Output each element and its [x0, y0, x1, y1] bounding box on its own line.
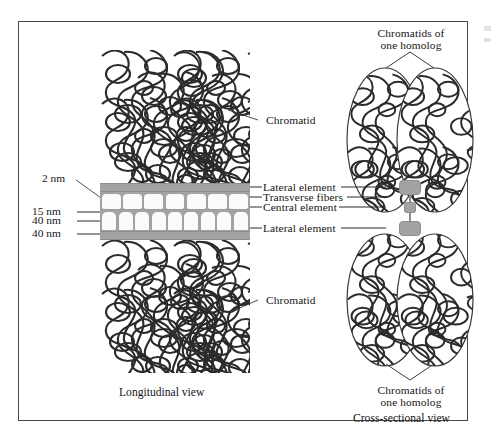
label-chromatids-homolog-bottom-line2: one homolog — [364, 396, 458, 409]
label-chromatids-homolog-top-line2: one homolog — [364, 39, 458, 52]
transverse-fiber-row-bottom — [100, 210, 250, 231]
transverse-fiber-gap — [102, 212, 116, 230]
synaptonemal-complex-longitudinal — [100, 183, 250, 240]
transverse-fiber-gap — [144, 194, 163, 209]
transverse-fiber-gap — [102, 194, 121, 209]
transverse-fiber-gap — [123, 194, 142, 209]
transverse-fiber-gap — [229, 194, 248, 209]
scale-label-2nm: 2 nm — [42, 172, 65, 184]
transverse-fiber-gap — [119, 212, 133, 230]
transverse-fiber-gap — [201, 212, 215, 230]
transverse-fiber-gap — [184, 212, 198, 230]
transverse-fiber-gap — [234, 212, 248, 230]
label-central-element: Central element — [263, 201, 337, 214]
caption-longitudinal-view: Longitudinal view — [119, 386, 204, 399]
transverse-fiber-gap — [152, 212, 166, 230]
transverse-fiber-gap — [166, 194, 185, 209]
transverse-fiber-row-top — [100, 192, 250, 210]
caption-cross-sectional-view: Cross-sectional view — [353, 412, 450, 425]
label-chromatid-bottom: Chromatid — [266, 294, 316, 307]
lateral-element-bar-bottom — [100, 231, 250, 240]
transverse-fiber-gap — [217, 212, 231, 230]
lateral-element-bar-top — [100, 183, 250, 192]
scale-label-40nm-upper: 40 nm — [32, 214, 61, 226]
transverse-fiber-gap — [187, 194, 206, 209]
label-chromatid-top: Chromatid — [266, 114, 316, 127]
label-lateral-element-bottom: Lateral element — [263, 222, 336, 235]
cs-lateral-element-top — [399, 180, 421, 195]
scale-label-40nm-lower: 40 nm — [32, 227, 61, 239]
cs-lateral-element-bottom — [399, 221, 421, 236]
transverse-fiber-gap — [208, 194, 227, 209]
transverse-fiber-gap — [168, 212, 182, 230]
transverse-fiber-gap — [135, 212, 149, 230]
edge-artifact — [484, 26, 494, 52]
